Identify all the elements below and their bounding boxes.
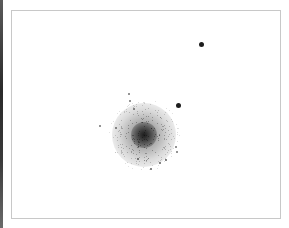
cluster-speckle — [117, 152, 118, 153]
cluster-speckle — [161, 118, 162, 119]
cluster-speckle — [131, 163, 132, 164]
faint-star — [128, 93, 130, 95]
cluster-speckle — [163, 147, 164, 148]
cluster-speckle — [164, 135, 165, 136]
cluster-speckle — [177, 128, 178, 129]
cluster-speckle — [171, 129, 172, 130]
cluster-speckle — [176, 124, 177, 125]
cluster-speckle — [128, 166, 129, 167]
cluster-speckle — [165, 128, 166, 129]
cluster-speckle — [117, 113, 118, 114]
cluster-speckle — [166, 108, 167, 109]
cluster-speckle — [142, 122, 143, 123]
cluster-speckle — [165, 149, 166, 150]
cluster-speckle — [178, 128, 179, 129]
cluster-speckle — [139, 150, 140, 151]
bright-star — [199, 42, 204, 47]
cluster-speckle — [113, 121, 114, 122]
cluster-speckle — [120, 114, 121, 115]
cluster-speckle — [132, 168, 133, 169]
cluster-speckle — [136, 104, 137, 105]
cluster-speckle — [122, 152, 123, 153]
cluster-speckle — [164, 161, 165, 162]
cluster-speckle — [157, 115, 158, 116]
cluster-speckle — [144, 103, 145, 104]
cluster-speckle — [170, 146, 171, 147]
cluster-speckle — [139, 142, 140, 143]
cluster-speckle — [123, 154, 124, 155]
cluster-speckle — [123, 148, 124, 149]
cluster-speckle — [132, 123, 133, 124]
cluster-speckle — [161, 124, 162, 125]
cluster-speckle — [169, 110, 170, 111]
cluster-speckle — [120, 144, 121, 145]
faint-star — [137, 158, 139, 160]
cluster-speckle — [179, 135, 180, 136]
cluster-speckle — [150, 162, 151, 163]
faint-star — [99, 125, 101, 127]
cluster-speckle — [133, 150, 134, 151]
star-field — [12, 11, 280, 218]
cluster-speckle — [146, 161, 147, 162]
cluster-speckle — [170, 149, 171, 150]
faint-star — [175, 146, 177, 148]
cluster-speckle — [171, 153, 172, 154]
cluster-speckle — [171, 139, 172, 140]
cluster-speckle — [148, 158, 149, 159]
cluster-speckle — [127, 162, 128, 163]
faint-star — [159, 162, 161, 164]
cluster-speckle — [139, 152, 140, 153]
cluster-speckle — [173, 148, 174, 149]
cluster-speckle — [144, 132, 145, 133]
cluster-speckle — [161, 159, 162, 160]
cluster-speckle — [172, 121, 173, 122]
cluster-speckle — [169, 144, 170, 145]
cluster-speckle — [143, 114, 144, 115]
cluster-speckle — [149, 169, 150, 170]
faint-star — [115, 127, 117, 129]
cluster-speckle — [145, 153, 146, 154]
cluster-speckle — [167, 152, 168, 153]
cluster-speckle — [152, 165, 153, 166]
cluster-speckle — [142, 119, 143, 120]
cluster-speckle — [128, 105, 129, 106]
cluster-speckle — [144, 126, 145, 127]
cluster-speckle — [171, 156, 172, 157]
cluster-speckle — [164, 125, 165, 126]
cluster-speckle — [136, 122, 137, 123]
cluster-speckle — [138, 102, 139, 103]
faint-star — [176, 151, 178, 153]
cluster-speckle — [141, 169, 142, 170]
cluster-speckle — [143, 167, 144, 168]
cluster-speckle — [137, 113, 138, 114]
cluster-speckle — [168, 130, 169, 131]
cluster-speckle — [122, 144, 123, 145]
cluster-speckle — [162, 130, 163, 131]
cluster-speckle — [141, 118, 142, 119]
cluster-speckle — [111, 123, 112, 124]
cluster-speckle — [137, 111, 138, 112]
cluster-speckle — [174, 138, 175, 139]
cluster-speckle — [138, 115, 139, 116]
cluster-speckle — [158, 165, 159, 166]
faint-star — [129, 100, 131, 102]
cluster-speckle — [144, 144, 145, 145]
cluster-speckle — [171, 151, 172, 152]
cluster-speckle — [136, 154, 137, 155]
cluster-speckle — [138, 144, 139, 145]
cluster-speckle — [109, 132, 110, 133]
cluster-speckle — [125, 163, 126, 164]
cluster-speckle — [127, 106, 128, 107]
cluster-speckle — [163, 129, 164, 130]
cluster-speckle — [134, 139, 135, 140]
bright-star — [176, 103, 181, 108]
cluster-speckle — [165, 132, 166, 133]
cluster-speckle — [164, 114, 165, 115]
cluster-speckle — [177, 132, 178, 133]
cluster-speckle — [169, 126, 170, 127]
cluster-speckle — [169, 134, 170, 135]
cluster-speckle — [138, 147, 139, 148]
left-edge-strip — [0, 0, 3, 228]
image-frame — [11, 10, 281, 219]
cluster-speckle — [158, 110, 159, 111]
